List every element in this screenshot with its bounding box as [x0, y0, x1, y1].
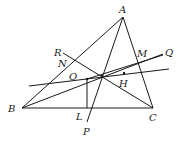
label-b: B — [7, 103, 15, 114]
point-h — [123, 72, 125, 74]
point-o — [86, 78, 88, 80]
label-h: H — [118, 78, 128, 89]
label-o: O — [69, 71, 77, 82]
label-p: P — [82, 126, 90, 137]
segment-oq — [87, 55, 163, 79]
line-oh — [29, 69, 169, 86]
geometry-diagram: A B C L P R N O H M Q — [0, 0, 178, 143]
label-m: M — [136, 48, 148, 59]
label-q: Q — [165, 47, 173, 58]
label-l: L — [75, 111, 83, 122]
label-r: R — [53, 47, 62, 58]
label-a: A — [118, 4, 126, 15]
point-intersection — [101, 75, 103, 77]
label-n: N — [57, 58, 68, 69]
label-c: C — [149, 112, 157, 123]
